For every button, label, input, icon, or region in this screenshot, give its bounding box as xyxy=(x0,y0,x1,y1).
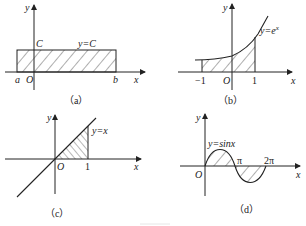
panel-a: y C y=C a O b x （a） xyxy=(5,2,145,106)
x-axis-label: x xyxy=(133,161,139,172)
left-bound-label: a xyxy=(15,74,20,85)
origin-label: O xyxy=(26,74,33,85)
pi-label: π xyxy=(237,155,242,166)
y-axis-label: y xyxy=(24,2,30,13)
right-bound-label: b xyxy=(113,74,118,85)
panel-c: y y=x O 1 x （c） xyxy=(5,112,141,219)
y-axis-label: y xyxy=(195,112,201,123)
y-axis-label: y xyxy=(222,2,228,13)
origin-label: O xyxy=(57,161,64,172)
right-bound-label: 1 xyxy=(252,75,257,86)
function-label: y=sinx xyxy=(207,138,236,149)
height-label: C xyxy=(36,38,43,49)
panel-d: y y=sinx O π 2π x （d） xyxy=(180,112,301,215)
right-bound-label: 1 xyxy=(85,161,90,172)
origin-label: O xyxy=(195,169,202,180)
function-label: y=ex xyxy=(259,24,280,36)
x-axis-label: x xyxy=(290,75,296,86)
shaded-region-b xyxy=(202,37,255,72)
shaded-region-a xyxy=(17,50,116,72)
two-pi-label: 2π xyxy=(264,155,274,166)
x-axis-label: x xyxy=(133,74,139,85)
panel-caption: （a） xyxy=(64,95,88,106)
origin-label: O xyxy=(223,75,230,86)
y-axis-label: y xyxy=(46,112,52,123)
panel-caption: （d） xyxy=(234,204,259,215)
panel-caption: （b） xyxy=(218,95,243,106)
left-bound-label: −1 xyxy=(195,75,206,86)
figure-canvas: y C y=C a O b x （a） y y=ex −1 O 1 x （b） … xyxy=(0,0,306,226)
function-label: y=C xyxy=(77,38,96,49)
panel-b: y y=ex −1 O 1 x （b） xyxy=(178,2,296,106)
panel-caption: （c） xyxy=(45,208,69,219)
function-label: y=x xyxy=(91,125,108,136)
x-axis-label: x xyxy=(295,169,301,180)
